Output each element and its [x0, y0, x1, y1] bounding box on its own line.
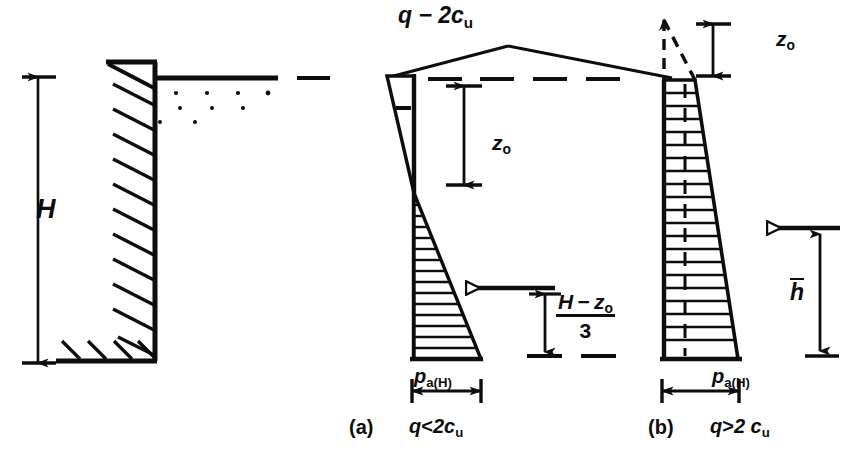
lever-arm-denominator: 3	[556, 319, 615, 341]
lever-num-minus: −	[577, 290, 589, 313]
q-minus-2cu-leader	[386, 46, 672, 78]
apex-pressure-label: q − 2cu	[398, 4, 473, 27]
lever-num-H: H	[558, 290, 573, 313]
retaining-wall	[56, 62, 157, 361]
diagram-b-z0-text: z	[776, 27, 787, 50]
apex-pressure-subscript: u	[464, 14, 473, 31]
diagram-a-caption-tag: (a)	[349, 417, 373, 437]
apex-pressure-text: q − 2c	[398, 2, 464, 28]
diagram-a-pa-text: p	[414, 365, 426, 387]
diagram-b	[659, 18, 840, 403]
lever-num-z-subscript: o	[604, 300, 612, 316]
diagram-b-lever-arm-label: h	[790, 278, 804, 304]
diagram-a	[387, 74, 620, 403]
soil-dot-fill	[158, 91, 270, 124]
lever-num-z: z	[594, 290, 605, 313]
diagram-a-pressure-triangle	[414, 193, 481, 359]
leader-to-diagram-a	[386, 46, 508, 78]
diagram-a-tension-triangle	[387, 76, 414, 193]
leader-to-diagram-b	[508, 46, 672, 78]
diagram-a-z0-label: zo	[492, 132, 511, 153]
diagram-b-z0-dimension	[696, 24, 731, 76]
figure-linework	[0, 0, 868, 463]
earth-pressure-figure: H q − 2cu zo zo H − zo 3 h pa(H) pa(H) (…	[0, 0, 868, 463]
diagram-b-caption-tag: (b)	[648, 417, 674, 437]
caption-a-cu: 2cu	[433, 415, 463, 437]
wall-section-panel	[22, 62, 330, 363]
diagram-b-virtual-apex-triangle	[664, 20, 695, 80]
diagram-a-z0-text: z	[492, 131, 503, 154]
diagram-b-pa-text: p	[712, 365, 724, 387]
caption-b-cu: 2 cu	[734, 415, 770, 437]
caption-b-q: q	[710, 415, 722, 437]
diagram-b-lever-dimension	[805, 234, 839, 356]
diagram-a-lever-arm-label: H − zo 3	[556, 291, 615, 341]
diagram-b-z0-subscript: o	[787, 37, 795, 53]
diagram-b-pa-subscript: a(H)	[724, 375, 750, 390]
diagram-b-caption-condition: q>2 cu	[710, 416, 770, 436]
diagram-a-pressure-label: pa(H)	[414, 366, 452, 386]
diagram-a-pa-subscript: a(H)	[426, 375, 452, 390]
diagram-b-pressure-label: pa(H)	[712, 366, 750, 386]
caption-a-operator: <	[421, 415, 433, 437]
diagram-b-pressure-block	[664, 80, 738, 359]
diagram-a-z0-subscript: o	[503, 141, 511, 157]
diagram-b-hbar-text: h	[790, 278, 804, 304]
diagram-a-z0-dimension	[446, 86, 482, 185]
caption-a-q: q	[409, 415, 421, 437]
diagram-b-z0-label: zo	[776, 28, 795, 49]
caption-b-operator: >	[722, 415, 734, 437]
diagram-a-caption-condition: q<2cu	[409, 416, 463, 436]
height-label: H	[36, 196, 56, 223]
lever-arm-numerator: H − zo	[556, 291, 615, 313]
